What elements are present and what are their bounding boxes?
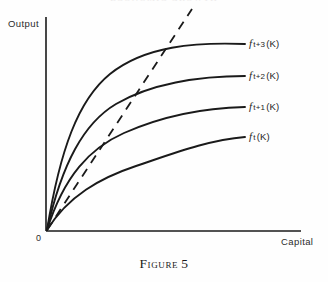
curve-label-f-t-plus-2: ft+2(K) <box>249 69 279 81</box>
curve-label-f-t-plus-1: ft+1(K) <box>249 100 279 112</box>
dashed-ray <box>47 9 192 230</box>
curve-label-subscript: t+3 <box>253 40 266 49</box>
curve-f-t-plus-3 <box>47 44 245 230</box>
curve-label-subscript: t+1 <box>253 103 266 112</box>
curve-label-argument: (K) <box>266 101 279 112</box>
curve-label-argument: (K) <box>266 38 279 49</box>
figure-caption: Figure5 <box>0 256 328 272</box>
caption-word: Figure <box>140 256 179 271</box>
caption-number: 5 <box>178 256 188 271</box>
y-axis-label: Output <box>8 18 39 29</box>
curve-label-subscript: t+2 <box>253 72 266 81</box>
curve-f-t-plus-2 <box>47 76 245 230</box>
curve-label-argument: (K) <box>266 70 279 81</box>
curve-label-f-t-plus-3: ft+3(K) <box>249 37 279 49</box>
curve-label-f-t: ft(K) <box>249 130 270 142</box>
curve-label-argument: (K) <box>257 131 270 142</box>
origin-label: 0 <box>36 233 41 243</box>
curve-f-t-plus-1 <box>47 107 245 230</box>
figure-container: ECONOMIC GROWTH Output Capital 0 ft+3(K)… <box>0 0 328 282</box>
x-axis-label: Capital <box>281 236 313 247</box>
